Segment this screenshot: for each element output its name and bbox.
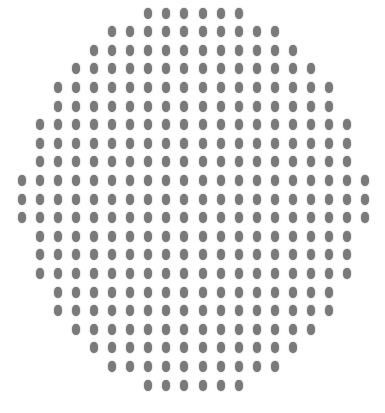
dot xyxy=(126,194,134,205)
dot xyxy=(325,212,333,223)
dot xyxy=(162,26,170,37)
dot xyxy=(36,119,44,130)
dot xyxy=(72,119,80,130)
dot xyxy=(271,287,279,298)
dot xyxy=(253,342,261,353)
dot xyxy=(253,324,261,335)
dot xyxy=(108,287,116,298)
dot xyxy=(199,380,207,391)
dot xyxy=(253,305,261,316)
dot xyxy=(235,268,243,279)
dot xyxy=(289,45,297,56)
dot xyxy=(126,324,134,335)
dot xyxy=(54,287,62,298)
dot xyxy=(162,194,170,205)
dot xyxy=(90,82,98,93)
dot xyxy=(307,119,315,130)
dot xyxy=(90,324,98,335)
dot xyxy=(253,175,261,186)
dot xyxy=(90,138,98,149)
dot xyxy=(325,268,333,279)
dot xyxy=(126,82,134,93)
dot xyxy=(325,231,333,242)
dot xyxy=(307,82,315,93)
dot xyxy=(343,156,351,167)
dot xyxy=(180,119,188,130)
dot xyxy=(144,26,152,37)
dot xyxy=(307,194,315,205)
dot xyxy=(108,342,116,353)
dot xyxy=(271,101,279,112)
dot xyxy=(126,212,134,223)
dot xyxy=(253,194,261,205)
dot xyxy=(271,175,279,186)
dot xyxy=(144,361,152,372)
dot xyxy=(289,119,297,130)
dot xyxy=(90,305,98,316)
dot xyxy=(253,287,261,298)
dot xyxy=(343,138,351,149)
dot xyxy=(199,8,207,19)
dot xyxy=(162,82,170,93)
dot xyxy=(199,156,207,167)
dot xyxy=(108,82,116,93)
dot xyxy=(199,249,207,260)
dot xyxy=(325,138,333,149)
dot xyxy=(199,342,207,353)
dot xyxy=(90,342,98,353)
dot xyxy=(217,45,225,56)
dot xyxy=(72,305,80,316)
dot xyxy=(235,63,243,74)
dot xyxy=(144,342,152,353)
dot xyxy=(126,63,134,74)
dot xyxy=(253,119,261,130)
dot xyxy=(144,8,152,19)
dot xyxy=(217,212,225,223)
dot xyxy=(126,342,134,353)
dot xyxy=(271,82,279,93)
dot xyxy=(108,63,116,74)
dot xyxy=(108,156,116,167)
dot xyxy=(90,212,98,223)
dot xyxy=(180,138,188,149)
dot xyxy=(90,249,98,260)
dot xyxy=(325,101,333,112)
dot xyxy=(235,342,243,353)
dot xyxy=(235,101,243,112)
dot xyxy=(18,212,26,223)
dot xyxy=(289,212,297,223)
dot xyxy=(180,175,188,186)
dot xyxy=(144,82,152,93)
dot xyxy=(253,63,261,74)
dot xyxy=(253,101,261,112)
dot xyxy=(271,26,279,37)
dot xyxy=(217,305,225,316)
dot xyxy=(108,324,116,335)
dot xyxy=(199,361,207,372)
dot xyxy=(72,63,80,74)
dot xyxy=(162,268,170,279)
dot xyxy=(72,268,80,279)
dot xyxy=(126,305,134,316)
dot xyxy=(307,138,315,149)
dot xyxy=(180,26,188,37)
dot xyxy=(54,138,62,149)
dot xyxy=(289,305,297,316)
dot xyxy=(235,361,243,372)
dot xyxy=(180,324,188,335)
dot xyxy=(126,268,134,279)
dot xyxy=(54,231,62,242)
dot xyxy=(217,82,225,93)
dot xyxy=(253,45,261,56)
dot xyxy=(108,26,116,37)
dot xyxy=(162,212,170,223)
dot xyxy=(144,138,152,149)
dot xyxy=(289,156,297,167)
dot xyxy=(343,194,351,205)
dot xyxy=(90,175,98,186)
dot xyxy=(217,361,225,372)
dot xyxy=(217,268,225,279)
dot xyxy=(325,305,333,316)
dot xyxy=(144,231,152,242)
dot xyxy=(144,63,152,74)
